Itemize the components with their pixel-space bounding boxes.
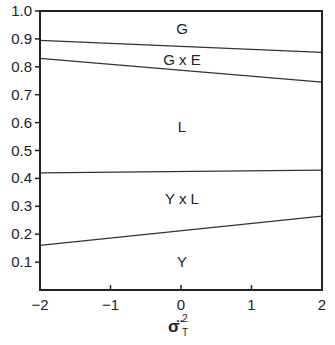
- y-tick-label: 1.0: [11, 2, 32, 19]
- boundary-line: [40, 170, 322, 173]
- region-label: Y x L: [165, 190, 199, 207]
- y-tick-label: 0.6: [11, 114, 32, 131]
- y-tick-label: 0.7: [11, 86, 32, 103]
- x-tick-label: 1: [247, 296, 255, 313]
- x-axis-label-subscript: T: [182, 327, 188, 338]
- y-tick-label: 0.1: [11, 253, 32, 270]
- y-axis-ticks: 0.10.20.30.40.50.60.70.80.91.0: [11, 2, 40, 270]
- x-tick-label: −1: [102, 296, 119, 313]
- y-tick-label: 0.3: [11, 197, 32, 214]
- y-tick-label: 0.8: [11, 58, 32, 75]
- region-label: G: [176, 20, 188, 37]
- x-tick-label: 2: [318, 296, 326, 313]
- x-axis-label-superscript: 2: [182, 313, 188, 324]
- stacked-variance-chart: 0.10.20.30.40.50.60.70.80.91.0 −2−1012 G…: [0, 0, 335, 345]
- region-label: L: [178, 118, 186, 135]
- region-label: G x E: [163, 51, 201, 68]
- boundary-lines: [40, 40, 322, 245]
- boundary-line: [40, 216, 322, 245]
- y-tick-label: 0.5: [11, 142, 32, 159]
- y-tick-label: 0.9: [11, 30, 32, 47]
- x-axis-label: σ̈: [168, 317, 183, 336]
- region-labels: GG x ELY x LY: [163, 20, 201, 270]
- x-tick-label: 0: [177, 296, 185, 313]
- y-tick-label: 0.4: [11, 169, 32, 186]
- region-label: Y: [177, 253, 187, 270]
- y-tick-label: 0.2: [11, 225, 32, 242]
- x-tick-label: −2: [31, 296, 48, 313]
